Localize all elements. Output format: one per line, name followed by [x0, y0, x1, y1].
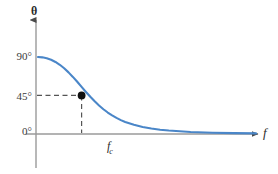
- plot-canvas: [0, 0, 278, 174]
- y-tick-label-0: 0°: [10, 125, 32, 137]
- y-tick-label-90: 90°: [6, 50, 32, 62]
- y-tick-label-45: 45°: [6, 90, 32, 102]
- x-axis-title-f: f: [263, 125, 267, 141]
- phase-response-curve: [38, 57, 256, 133]
- phase-response-figure: 90° 45° 0° θ f fc: [0, 0, 278, 174]
- y-axis-title-theta: θ: [31, 4, 37, 19]
- cutoff-point-marker: [78, 92, 86, 100]
- x-tick-label-cutoff-frequency: fc: [107, 139, 114, 155]
- x-tick-label-fc-subscript: c: [109, 147, 113, 156]
